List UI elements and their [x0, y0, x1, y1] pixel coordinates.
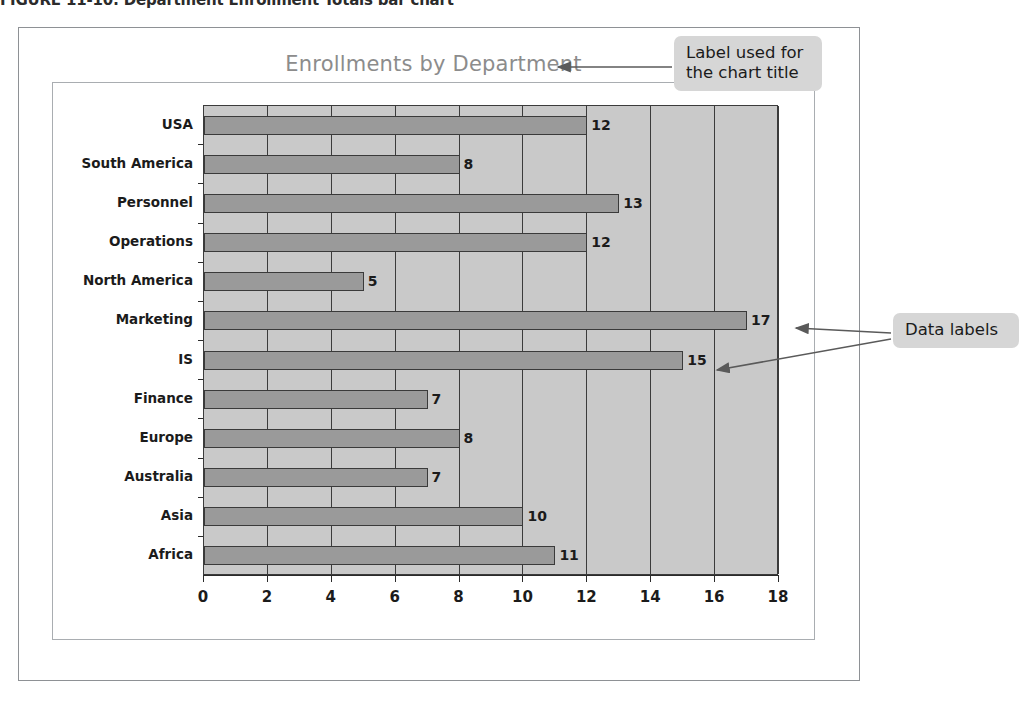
- bar: [204, 507, 523, 526]
- x-axis-tick-label: 2: [262, 588, 272, 606]
- bar: [204, 468, 428, 487]
- x-axis-tick-label: 18: [768, 588, 789, 606]
- callout-data-labels: Data labels: [893, 313, 1019, 348]
- bar-data-label: 8: [464, 431, 474, 445]
- bar-data-label: 17: [751, 313, 770, 327]
- category-tick: [198, 497, 203, 498]
- x-axis-tick: [714, 575, 715, 582]
- category-label: South America: [82, 157, 193, 171]
- gridline: [714, 106, 715, 574]
- category-tick: [198, 223, 203, 224]
- gridline: [395, 106, 396, 574]
- category-axis: USASouth AmericaPersonnelOperationsNorth…: [60, 105, 193, 575]
- gridline: [522, 106, 523, 574]
- category-tick: [198, 458, 203, 459]
- bar: [204, 272, 364, 291]
- x-axis-tick-label: 6: [389, 588, 399, 606]
- category-label: Finance: [134, 392, 193, 406]
- bar-data-label: 13: [623, 196, 642, 210]
- x-axis-tick: [586, 575, 587, 582]
- bar: [204, 155, 460, 174]
- callout-title-line-1: Label used for: [686, 43, 810, 63]
- x-axis-tick-label: 4: [326, 588, 336, 606]
- category-label: USA: [162, 118, 193, 132]
- category-tick: [198, 536, 203, 537]
- bar-data-label: 7: [432, 392, 442, 406]
- category-label: Marketing: [116, 313, 193, 327]
- bar: [204, 233, 587, 252]
- category-tick: [198, 379, 203, 380]
- bar-data-label: 15: [687, 353, 706, 367]
- bar-data-label: 7: [432, 470, 442, 484]
- bar: [204, 194, 619, 213]
- bar: [204, 311, 747, 330]
- bar-data-label: 12: [591, 118, 610, 132]
- gridline: [331, 106, 332, 574]
- x-axis-tick: [459, 575, 460, 582]
- x-axis-tick-label: 12: [576, 588, 597, 606]
- bar: [204, 546, 555, 565]
- category-label: Personnel: [117, 196, 193, 210]
- x-axis-tick: [203, 575, 204, 582]
- category-label: Australia: [124, 470, 193, 484]
- bar-data-label: 5: [368, 274, 378, 288]
- category-label: North America: [83, 274, 193, 288]
- bar: [204, 390, 428, 409]
- x-axis-line: [203, 575, 779, 576]
- figure-caption: FIGURE 11-10: Department Enrollment Tota…: [0, 0, 454, 9]
- category-label: IS: [178, 353, 193, 367]
- x-axis-tick-label: 8: [453, 588, 463, 606]
- category-tick: [198, 301, 203, 302]
- x-axis-tick: [522, 575, 523, 582]
- category-tick: [198, 183, 203, 184]
- bar-data-label: 12: [591, 235, 610, 249]
- gridline: [267, 106, 268, 574]
- x-axis-tick-label: 10: [512, 588, 533, 606]
- x-axis-tick-label: 0: [198, 588, 208, 606]
- bar-data-label: 11: [559, 548, 578, 562]
- x-axis-tick-label: 16: [704, 588, 725, 606]
- category-label: Asia: [161, 509, 193, 523]
- gridline: [586, 106, 587, 574]
- x-axis-tick: [267, 575, 268, 582]
- category-label: Europe: [139, 431, 193, 445]
- category-tick: [198, 340, 203, 341]
- gridline: [778, 106, 779, 574]
- bar-data-label: 10: [527, 509, 546, 523]
- category-tick: [198, 418, 203, 419]
- x-axis-tick: [395, 575, 396, 582]
- gridline: [650, 106, 651, 574]
- callout-title-line-2: the chart title: [686, 63, 810, 83]
- bar: [204, 429, 460, 448]
- category-label: Africa: [148, 548, 193, 562]
- x-axis-tick-label: 14: [640, 588, 661, 606]
- category-tick: [198, 144, 203, 145]
- category-label: Operations: [109, 235, 193, 249]
- x-axis-tick: [650, 575, 651, 582]
- category-tick: [198, 262, 203, 263]
- callout-chart-title-label: Label used for the chart title: [674, 36, 822, 91]
- bar-data-label: 8: [464, 157, 474, 171]
- bar: [204, 351, 683, 370]
- x-axis-tick: [331, 575, 332, 582]
- plot-area: [203, 105, 778, 575]
- gridline: [459, 106, 460, 574]
- bar: [204, 116, 587, 135]
- x-axis-tick: [778, 575, 779, 582]
